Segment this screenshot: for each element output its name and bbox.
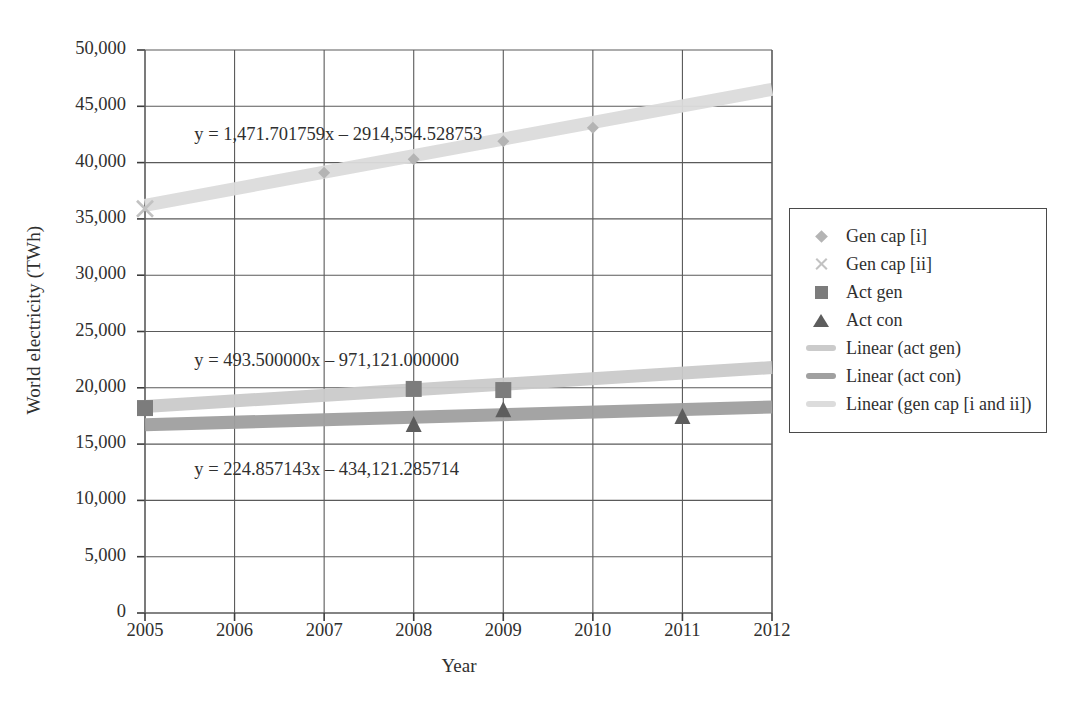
legend-item-label: Act gen (838, 282, 902, 303)
y-tick-label: 25,000 (30, 320, 126, 341)
y-tick-label: 30,000 (30, 263, 126, 284)
legend-item-label: Linear (act gen) (838, 338, 961, 359)
trendline-equation: y = 224.857143x – 434,121.285714 (194, 459, 459, 480)
legend-marker (804, 280, 838, 304)
legend-marker (804, 392, 838, 416)
legend-item[interactable]: Linear (gen cap [i and ii]) (804, 390, 1036, 418)
x-tick-label: 2008 (374, 620, 454, 641)
y-tick-label: 35,000 (30, 207, 126, 228)
legend-item-label: Act con (838, 310, 902, 331)
legend-marker (804, 336, 838, 360)
chart-figure: World electricity (TWh) Year 05,00010,00… (0, 0, 1092, 701)
x-axis-title: Year (145, 655, 773, 677)
triangle-icon (813, 314, 829, 327)
data-point-square (495, 382, 511, 398)
trendline-equation: y = 1,471.701759x – 2914,554.528753 (194, 124, 482, 145)
legend-item-label: Gen cap [ii] (838, 254, 932, 275)
x-tick-label: 2006 (195, 620, 275, 641)
y-tick-label: 5,000 (30, 545, 126, 566)
x-tick-label: 2005 (105, 620, 185, 641)
legend-marker (804, 308, 838, 332)
legend-item[interactable]: Gen cap [i] (804, 222, 1036, 250)
cross-icon (814, 257, 828, 271)
y-tick-label: 0 (30, 601, 126, 622)
y-tick-label: 15,000 (30, 432, 126, 453)
y-tick-label: 50,000 (30, 38, 126, 59)
y-tick-label: 45,000 (30, 94, 126, 115)
trendline-equation: y = 493.500000x – 971,121.000000 (194, 350, 459, 371)
legend-item-label: Gen cap [i] (838, 226, 927, 247)
y-tick-label: 10,000 (30, 488, 126, 509)
square-icon (815, 286, 828, 299)
legend-item[interactable]: Linear (act con) (804, 362, 1036, 390)
x-tick-label: 2012 (732, 620, 812, 641)
y-tick-label: 20,000 (30, 376, 126, 397)
line-swatch-icon (806, 373, 836, 379)
trendline (145, 368, 772, 407)
line-swatch-icon (806, 401, 836, 407)
legend-item[interactable]: Act gen (804, 278, 1036, 306)
legend-item[interactable]: Gen cap [ii] (804, 250, 1036, 278)
x-tick-label: 2010 (553, 620, 633, 641)
legend-marker (804, 252, 838, 276)
x-tick-label: 2007 (284, 620, 364, 641)
y-tick-label: 40,000 (30, 151, 126, 172)
data-point-square (406, 381, 422, 397)
legend-marker (804, 224, 838, 248)
legend-item-label: Linear (gen cap [i and ii]) (838, 394, 1031, 415)
diamond-icon (815, 230, 828, 243)
x-tick-label: 2009 (463, 620, 543, 641)
x-tick-label: 2011 (642, 620, 722, 641)
legend-marker (804, 364, 838, 388)
line-swatch-icon (806, 345, 836, 351)
legend-item[interactable]: Linear (act gen) (804, 334, 1036, 362)
data-point-square (137, 400, 153, 416)
legend: Gen cap [i]Gen cap [ii]Act genAct conLin… (789, 208, 1047, 433)
legend-item[interactable]: Act con (804, 306, 1036, 334)
legend-item-label: Linear (act con) (838, 366, 961, 387)
